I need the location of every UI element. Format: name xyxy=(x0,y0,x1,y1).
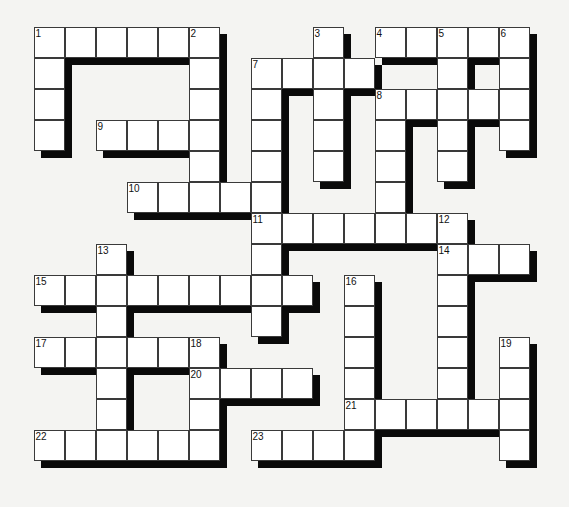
grid-cell[interactable] xyxy=(127,430,158,461)
grid-cell[interactable] xyxy=(282,213,313,244)
grid-cell[interactable] xyxy=(158,430,189,461)
grid-cell[interactable]: 22 xyxy=(34,430,65,461)
grid-cell[interactable] xyxy=(437,399,468,430)
grid-cell[interactable] xyxy=(375,213,406,244)
grid-cell[interactable] xyxy=(437,151,468,182)
grid-cell[interactable] xyxy=(344,337,375,368)
grid-cell[interactable] xyxy=(499,89,530,120)
grid-cell[interactable] xyxy=(499,399,530,430)
grid-cell[interactable] xyxy=(437,306,468,337)
grid-cell[interactable] xyxy=(313,430,344,461)
grid-cell[interactable] xyxy=(375,182,406,213)
grid-cell[interactable] xyxy=(251,368,282,399)
grid-cell[interactable] xyxy=(313,58,344,89)
grid-cell[interactable] xyxy=(189,151,220,182)
grid-cell[interactable]: 23 xyxy=(251,430,282,461)
grid-cell[interactable] xyxy=(158,275,189,306)
grid-cell[interactable] xyxy=(220,368,251,399)
grid-cell[interactable] xyxy=(251,306,282,337)
grid-cell[interactable] xyxy=(282,275,313,306)
grid-cell[interactable] xyxy=(344,306,375,337)
grid-cell[interactable]: 3 xyxy=(313,27,344,58)
grid-cell[interactable] xyxy=(437,368,468,399)
grid-cell[interactable] xyxy=(34,89,65,120)
grid-cell[interactable] xyxy=(251,275,282,306)
grid-cell[interactable]: 13 xyxy=(96,244,127,275)
grid-cell[interactable] xyxy=(34,120,65,151)
grid-cell[interactable] xyxy=(437,58,468,89)
grid-cell[interactable]: 16 xyxy=(344,275,375,306)
grid-cell[interactable] xyxy=(251,244,282,275)
grid-cell[interactable] xyxy=(499,58,530,89)
grid-cell[interactable]: 11 xyxy=(251,213,282,244)
grid-cell[interactable] xyxy=(344,430,375,461)
grid-cell[interactable]: 12 xyxy=(437,213,468,244)
grid-cell[interactable] xyxy=(96,337,127,368)
grid-cell[interactable]: 15 xyxy=(34,275,65,306)
grid-cell[interactable] xyxy=(127,275,158,306)
grid-cell[interactable] xyxy=(65,430,96,461)
grid-cell[interactable] xyxy=(96,399,127,430)
grid-cell[interactable] xyxy=(96,430,127,461)
grid-cell[interactable] xyxy=(375,151,406,182)
grid-cell[interactable] xyxy=(189,275,220,306)
grid-cell[interactable] xyxy=(96,368,127,399)
grid-cell[interactable] xyxy=(468,399,499,430)
grid-cell[interactable] xyxy=(406,27,437,58)
grid-cell[interactable] xyxy=(468,244,499,275)
grid-cell[interactable] xyxy=(96,27,127,58)
grid-cell[interactable] xyxy=(65,275,96,306)
grid-cell[interactable]: 20 xyxy=(189,368,220,399)
grid-cell[interactable] xyxy=(406,399,437,430)
grid-cell[interactable] xyxy=(344,368,375,399)
grid-cell[interactable] xyxy=(189,89,220,120)
grid-cell[interactable]: 19 xyxy=(499,337,530,368)
grid-cell[interactable] xyxy=(313,120,344,151)
grid-cell[interactable] xyxy=(189,399,220,430)
grid-cell[interactable] xyxy=(127,337,158,368)
grid-cell[interactable] xyxy=(158,120,189,151)
grid-cell[interactable] xyxy=(158,337,189,368)
grid-cell[interactable]: 2 xyxy=(189,27,220,58)
grid-cell[interactable]: 21 xyxy=(344,399,375,430)
grid-cell[interactable] xyxy=(344,213,375,244)
grid-cell[interactable]: 10 xyxy=(127,182,158,213)
grid-cell[interactable] xyxy=(220,182,251,213)
grid-cell[interactable] xyxy=(65,337,96,368)
grid-cell[interactable] xyxy=(375,120,406,151)
grid-cell[interactable] xyxy=(127,27,158,58)
grid-cell[interactable] xyxy=(437,275,468,306)
grid-cell[interactable] xyxy=(437,89,468,120)
grid-cell[interactable] xyxy=(499,120,530,151)
grid-cell[interactable] xyxy=(189,182,220,213)
grid-cell[interactable] xyxy=(499,244,530,275)
grid-cell[interactable]: 14 xyxy=(437,244,468,275)
grid-cell[interactable] xyxy=(282,430,313,461)
grid-cell[interactable] xyxy=(468,89,499,120)
grid-cell[interactable] xyxy=(437,120,468,151)
grid-cell[interactable] xyxy=(251,182,282,213)
grid-cell[interactable] xyxy=(127,120,158,151)
grid-cell[interactable]: 8 xyxy=(375,89,406,120)
grid-cell[interactable] xyxy=(34,58,65,89)
grid-cell[interactable] xyxy=(313,151,344,182)
grid-cell[interactable]: 18 xyxy=(189,337,220,368)
grid-cell[interactable]: 9 xyxy=(96,120,127,151)
grid-cell[interactable] xyxy=(499,368,530,399)
grid-cell[interactable]: 17 xyxy=(34,337,65,368)
grid-cell[interactable] xyxy=(189,430,220,461)
grid-cell[interactable]: 5 xyxy=(437,27,468,58)
grid-cell[interactable] xyxy=(65,27,96,58)
grid-cell[interactable] xyxy=(468,27,499,58)
grid-cell[interactable] xyxy=(437,337,468,368)
grid-cell[interactable] xyxy=(96,275,127,306)
grid-cell[interactable] xyxy=(96,306,127,337)
grid-cell[interactable] xyxy=(220,275,251,306)
grid-cell[interactable] xyxy=(158,27,189,58)
grid-cell[interactable] xyxy=(282,368,313,399)
grid-cell[interactable] xyxy=(251,89,282,120)
grid-cell[interactable] xyxy=(313,213,344,244)
grid-cell[interactable]: 6 xyxy=(499,27,530,58)
grid-cell[interactable] xyxy=(189,120,220,151)
grid-cell[interactable] xyxy=(189,58,220,89)
